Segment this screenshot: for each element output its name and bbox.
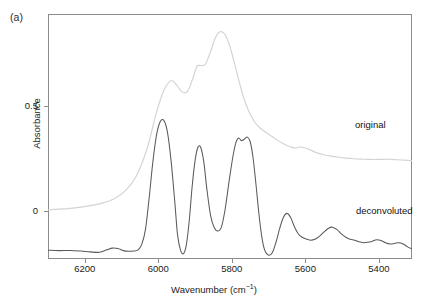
curve-deconvoluted [48,119,412,255]
x-axis-title-close: ) [254,284,257,295]
panel-label: (a) [10,11,23,23]
x-tick-label-3: 5600 [283,263,327,274]
series-label-deconvoluted: deconvoluted [356,205,413,216]
x-tick-label-2: 5800 [210,263,254,274]
series-label-original: original [355,119,386,130]
figure-container: (a) Absorbance 0.50 62006000580056005400… [0,0,428,307]
x-tick-mark-1 [158,259,159,263]
x-axis-title-exponent: −1 [246,283,254,290]
y-tick-label-1: 0 [8,205,38,216]
x-tick-label-4: 5400 [357,263,401,274]
x-tick-mark-4 [379,259,380,263]
y-axis-title: Absorbance [31,64,42,184]
spectra-plot [48,14,412,259]
plot-area: original deconvoluted [48,14,412,259]
x-axis-title: Wavenumber (cm−1) [0,283,428,295]
x-tick-mark-3 [305,259,306,263]
x-tick-mark-2 [232,259,233,263]
x-tick-label-0: 6200 [63,263,107,274]
y-tick-label-0: 0.5 [8,100,38,111]
x-tick-mark-0 [85,259,86,263]
x-tick-label-1: 6000 [136,263,180,274]
x-axis-title-main: Wavenumber (cm [171,284,246,295]
